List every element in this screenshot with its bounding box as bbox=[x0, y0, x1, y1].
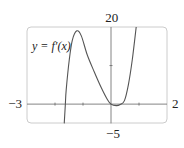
series-line-f-prime bbox=[64, 27, 136, 123]
y-max-label: 20 bbox=[105, 10, 118, 25]
x-max-label: 2 bbox=[172, 96, 179, 111]
function-label: y = f′(x) bbox=[31, 39, 71, 53]
chart: −3 2 20 −5 y = f′(x) bbox=[0, 0, 184, 148]
y-min-label: −5 bbox=[106, 126, 120, 141]
x-min-label: −3 bbox=[8, 96, 22, 111]
